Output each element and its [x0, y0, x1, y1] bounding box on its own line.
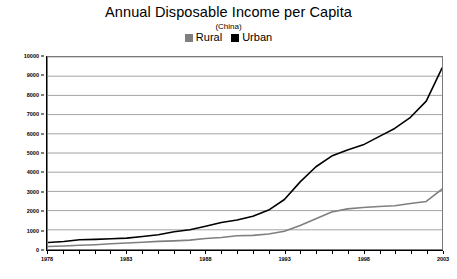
x-axis-tick-label: 1978	[41, 256, 53, 262]
x-axis-tick-mark	[253, 251, 254, 254]
x-axis-tick-mark	[316, 251, 317, 254]
x-axis-tick-mark	[364, 251, 365, 254]
y-axis-tick-label: 3000	[27, 189, 39, 195]
y-axis-tick-mark	[41, 172, 44, 173]
y-axis-tick-mark	[41, 191, 44, 192]
x-axis-tick-mark	[300, 251, 301, 254]
x-axis-tick-mark	[190, 251, 191, 254]
y-axis-tick-label: 7000	[27, 111, 39, 117]
x-axis-ticks	[47, 251, 443, 255]
y-axis-tick-mark	[41, 230, 44, 231]
x-axis-tick-label: 1983	[120, 256, 132, 262]
legend-label-urban: Urban	[242, 32, 272, 43]
x-axis-tick-mark	[395, 251, 396, 254]
y-axis-tick-mark	[41, 250, 44, 251]
x-axis-tick-mark	[205, 251, 206, 254]
x-axis-tick-mark	[126, 251, 127, 254]
x-axis-tick-mark	[332, 251, 333, 254]
plot-svg	[48, 57, 442, 249]
x-axis-tick-label: 1988	[199, 256, 211, 262]
legend-swatch-rural-icon	[185, 34, 193, 42]
x-axis-tick-label: 1998	[358, 256, 370, 262]
chart-subtitle: (China)	[0, 22, 457, 31]
legend-item-rural: Rural	[185, 32, 222, 43]
y-axis: 0100020003000400050006000700080009000100…	[0, 56, 44, 250]
x-axis-tick-mark	[110, 251, 111, 254]
x-axis-tick-mark	[285, 251, 286, 254]
y-axis-tick-mark	[41, 133, 44, 134]
x-axis-tick-mark	[348, 251, 349, 254]
legend-swatch-urban-icon	[231, 34, 239, 42]
y-axis-tick-mark	[41, 153, 44, 154]
x-axis-tick-mark	[142, 251, 143, 254]
y-axis-tick-mark	[41, 94, 44, 95]
y-axis-tick-label: 6000	[27, 131, 39, 137]
x-axis-tick-mark	[221, 251, 222, 254]
x-axis: 197819831988199319982003	[47, 256, 443, 268]
plot-area	[47, 56, 443, 250]
x-axis-tick-mark	[63, 251, 64, 254]
legend-label-rural: Rural	[196, 32, 222, 43]
x-axis-tick-mark	[443, 251, 444, 254]
x-axis-tick-mark	[95, 251, 96, 254]
x-axis-tick-label: 2003	[437, 256, 449, 262]
series-line-urban	[48, 68, 442, 242]
chart-legend: Rural Urban	[0, 32, 457, 43]
y-axis-tick-label: 2000	[27, 208, 39, 214]
y-axis-tick-label: 8000	[27, 92, 39, 98]
chart-page: Annual Disposable Income per Capita (Chi…	[0, 0, 457, 279]
x-axis-tick-mark	[237, 251, 238, 254]
y-axis-tick-label: 0	[36, 247, 39, 253]
y-axis-tick-label: 1000	[27, 228, 39, 234]
y-axis-tick-label: 4000	[27, 169, 39, 175]
y-axis-tick-label: 10000	[24, 53, 39, 59]
y-axis-tick-mark	[41, 75, 44, 76]
legend-item-urban: Urban	[231, 32, 272, 43]
page-title: Annual Disposable Income per Capita	[0, 4, 457, 20]
x-axis-tick-mark	[411, 251, 412, 254]
x-axis-tick-mark	[47, 251, 48, 254]
x-axis-tick-mark	[269, 251, 270, 254]
y-axis-tick-label: 9000	[27, 72, 39, 78]
x-axis-tick-mark	[79, 251, 80, 254]
x-axis-tick-mark	[174, 251, 175, 254]
x-axis-tick-mark	[380, 251, 381, 254]
y-axis-tick-label: 5000	[27, 150, 39, 156]
y-axis-tick-mark	[41, 56, 44, 57]
x-axis-tick-mark	[158, 251, 159, 254]
y-axis-tick-mark	[41, 114, 44, 115]
y-axis-tick-mark	[41, 211, 44, 212]
x-axis-tick-label: 1993	[278, 256, 290, 262]
x-axis-tick-mark	[427, 251, 428, 254]
